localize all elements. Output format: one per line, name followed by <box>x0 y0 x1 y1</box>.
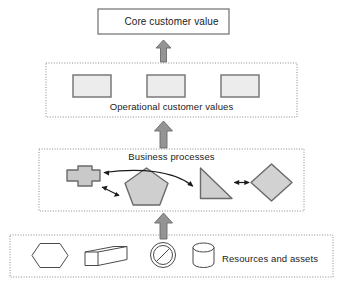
process-diamond-shape <box>251 164 292 201</box>
operational-value-box-2 <box>147 75 185 97</box>
core-customer-value-label: Core customer value <box>0 16 343 27</box>
process-triangle-shape <box>201 168 233 199</box>
process-cross-shape <box>67 166 100 186</box>
operational-value-box-1 <box>73 75 111 97</box>
connector-triangle-diamond <box>234 180 250 185</box>
resource-prohibition-shape <box>151 243 176 268</box>
operational-customer-values-label: Operational customer values <box>0 101 343 112</box>
resource-prism-shape <box>85 247 127 266</box>
process-pentagon-shape <box>125 168 168 205</box>
operational-value-box-3 <box>221 75 259 97</box>
arrow-processes-to-operational <box>155 121 173 148</box>
connector-cross-pentagon <box>102 186 120 197</box>
business-processes-label: Business processes <box>0 151 343 162</box>
diagram-canvas: Core customer value Operational customer… <box>0 0 343 283</box>
resources-and-assets-label: Resources and assets <box>222 253 318 264</box>
resource-hexagon-shape <box>32 244 68 268</box>
arrow-operational-to-core <box>156 40 171 62</box>
resource-cylinder-shape <box>193 243 214 268</box>
diagram-graphics <box>0 0 343 283</box>
